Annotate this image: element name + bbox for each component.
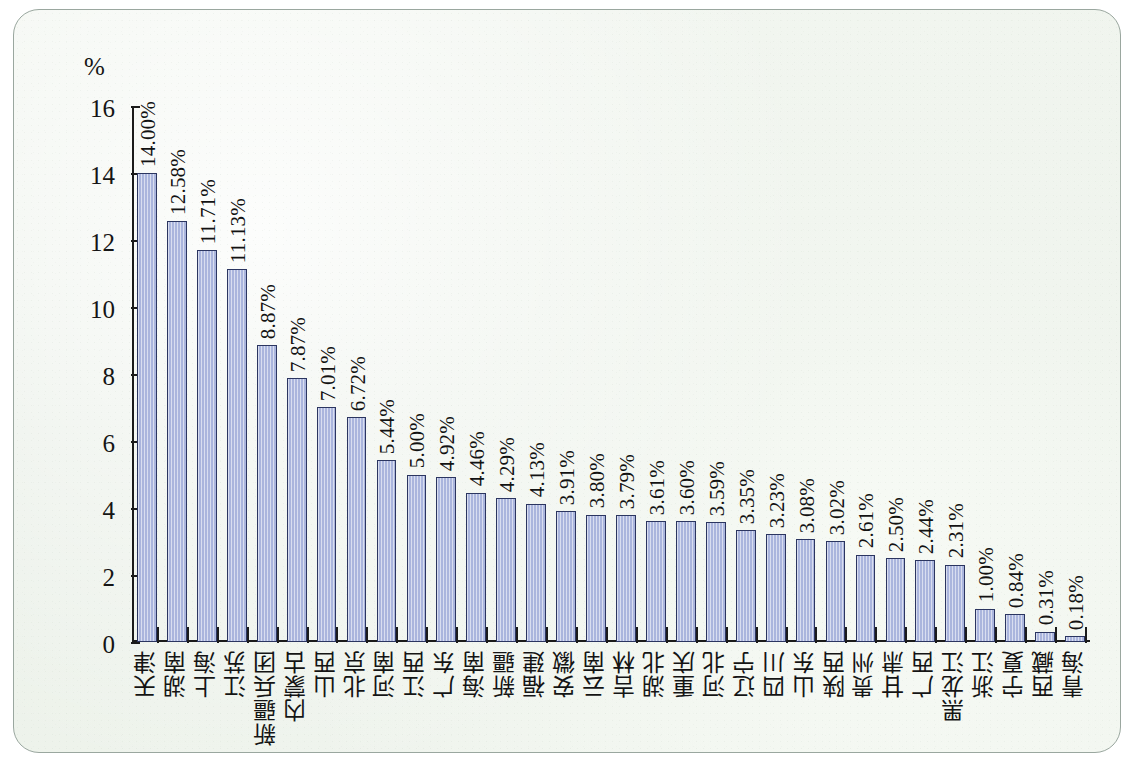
bar-rect[interactable] (167, 221, 187, 642)
bar-rect[interactable] (676, 521, 696, 642)
bar-rect[interactable] (1005, 614, 1025, 642)
bar-rect[interactable] (1035, 632, 1055, 642)
bar-value-label: 5.44% (378, 399, 399, 454)
bar-rect[interactable] (197, 250, 217, 642)
bar-rect[interactable] (227, 269, 247, 642)
bar-item[interactable]: 3.91% (556, 106, 576, 642)
bar-value-label: 3.02% (827, 480, 848, 535)
x-tick (935, 627, 937, 643)
bar-value-label: 0.31% (1036, 570, 1057, 625)
bar-item[interactable]: 0.18% (1065, 106, 1085, 642)
bar-item[interactable]: 11.71% (197, 106, 217, 642)
bar-value-label: 0.84% (1006, 553, 1027, 608)
bar-rect[interactable] (347, 417, 367, 642)
x-category-label: 宁夏 (1003, 650, 1026, 698)
bar-item[interactable]: 2.44% (915, 106, 935, 642)
bar-rect[interactable] (766, 534, 786, 642)
bar-rect[interactable] (646, 521, 666, 642)
bar-item[interactable]: 3.23% (766, 106, 786, 642)
bar-value-label: 7.87% (288, 317, 309, 372)
bar-item[interactable]: 3.35% (736, 106, 756, 642)
bar-item[interactable]: 3.08% (796, 106, 816, 642)
bar-item[interactable]: 3.59% (706, 106, 726, 642)
bar-value-label: 8.87% (258, 284, 279, 339)
x-tick (366, 627, 368, 643)
bar-item[interactable]: 3.80% (586, 106, 606, 642)
bar-rect[interactable] (736, 530, 756, 642)
bar-item[interactable]: 7.87% (287, 106, 307, 642)
bar-item[interactable]: 4.29% (496, 106, 516, 642)
bar-item[interactable]: 3.79% (616, 106, 636, 642)
bar-item[interactable]: 0.31% (1035, 106, 1055, 642)
bar-item[interactable]: 7.01% (317, 106, 337, 642)
bar-item[interactable]: 1.00% (975, 106, 995, 642)
bar-rect[interactable] (556, 511, 576, 642)
bar-rect[interactable] (466, 493, 486, 642)
bar-item[interactable]: 3.60% (676, 106, 696, 642)
bar-rect[interactable] (287, 378, 307, 642)
x-tick (516, 627, 518, 643)
bar-item[interactable]: 4.46% (466, 106, 486, 642)
y-tick: 0 (131, 642, 140, 644)
bar-item[interactable]: 12.58% (167, 106, 187, 642)
y-tick-label: 8 (103, 364, 116, 389)
bar-item[interactable]: 8.87% (257, 106, 277, 642)
bar-value-label: 2.61% (857, 493, 878, 548)
x-tick (396, 627, 398, 643)
bar-rect[interactable] (586, 515, 606, 642)
bar-value-label: 6.72% (348, 356, 369, 411)
bar-rect[interactable] (856, 555, 876, 642)
x-tick (426, 627, 428, 643)
y-axis-unit-label: % (84, 54, 105, 79)
bar-rect[interactable] (1065, 636, 1085, 642)
bar-value-label: 0.18% (1066, 575, 1087, 630)
bar-rect[interactable] (377, 460, 397, 642)
x-category-label: 北京 (345, 650, 368, 698)
bar-rect[interactable] (915, 560, 935, 642)
bar-rect[interactable] (496, 498, 516, 642)
x-tick (636, 627, 638, 643)
bar-item[interactable]: 5.44% (377, 106, 397, 642)
bar-value-label: 2.44% (917, 499, 938, 554)
bar-rect[interactable] (137, 173, 157, 642)
x-category-label: 青海 (1063, 650, 1086, 698)
bar-item[interactable]: 2.50% (886, 106, 906, 642)
bar-rect[interactable] (706, 522, 726, 642)
bar-rect[interactable] (526, 504, 546, 642)
x-category-label: 新疆兵团 (255, 650, 278, 746)
bar-item[interactable]: 11.13% (227, 106, 247, 642)
bar-rect[interactable] (407, 475, 427, 643)
x-tick (546, 627, 548, 643)
bar-item[interactable]: 3.02% (826, 106, 846, 642)
bar-rect[interactable] (975, 609, 995, 643)
x-category-label: 天津 (135, 650, 158, 698)
bar-value-label: 4.92% (438, 416, 459, 471)
bar-item[interactable]: 14.00% (137, 106, 157, 642)
x-tick (696, 627, 698, 643)
bar-rect[interactable] (616, 515, 636, 642)
bar-value-label: 3.59% (707, 461, 728, 516)
bar-item[interactable]: 0.84% (1005, 106, 1025, 642)
bar-rect[interactable] (945, 565, 965, 642)
bar-rect[interactable] (886, 558, 906, 642)
bar-item[interactable]: 3.61% (646, 106, 666, 642)
bar-rect[interactable] (436, 477, 456, 642)
bar-value-label: 3.79% (617, 454, 638, 509)
x-tick (965, 627, 967, 643)
bar-item[interactable]: 2.31% (945, 106, 965, 642)
bar-value-label: 2.50% (887, 497, 908, 552)
bar-item[interactable]: 4.13% (526, 106, 546, 642)
x-tick (307, 627, 309, 643)
bar-item[interactable]: 2.61% (856, 106, 876, 642)
x-tick (1055, 627, 1057, 643)
bar-value-label: 3.60% (677, 460, 698, 515)
bar-item[interactable]: 5.00% (407, 106, 427, 642)
bar-item[interactable]: 4.92% (436, 106, 456, 642)
x-tick (995, 627, 997, 643)
bar-rect[interactable] (826, 541, 846, 642)
bar-rect[interactable] (796, 539, 816, 642)
bar-rect[interactable] (317, 407, 337, 642)
bar-rect[interactable] (257, 345, 277, 642)
bar-value-label: 3.91% (557, 450, 578, 505)
bar-item[interactable]: 6.72% (347, 106, 367, 642)
